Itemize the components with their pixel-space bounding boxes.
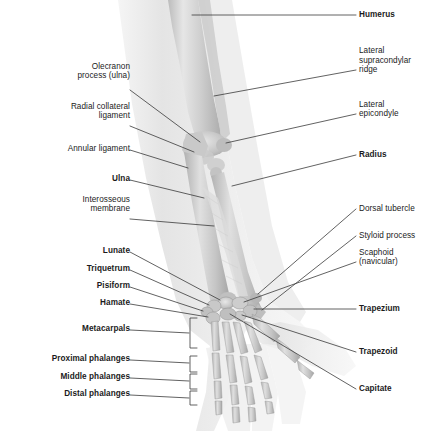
label-capitate: Capitate	[359, 384, 392, 394]
label-dorsal-tubercle: Dorsal tubercle	[359, 204, 415, 214]
label-interosseous-membrane: Interosseous membrane	[83, 195, 130, 214]
label-lunate: Lunate	[103, 246, 130, 256]
distal-phalanges-bracket	[190, 391, 197, 405]
label-radius: Radius	[359, 150, 387, 160]
label-annular-ligament: Annular ligament	[68, 144, 130, 154]
leader-proximal-phalanges	[130, 360, 189, 363]
label-lateral-epicondyle: Lateral epicondyle	[359, 100, 399, 119]
label-styloid-process: Styloid process	[359, 231, 415, 241]
label-olecranon-process-ulna: Olecranon process (ulna)	[77, 62, 130, 81]
middle-phalanges-bracket	[190, 374, 197, 389]
label-radial-collateral-ligament: Radial collateral ligament	[71, 102, 130, 121]
leader-metacarpals	[130, 330, 189, 333]
label-distal-phalanges: Distal phalanges	[64, 389, 130, 399]
label-trapezoid: Trapezoid	[359, 347, 398, 357]
leader-middle-phalanges	[130, 378, 189, 381]
label-pisiform: Pisiform	[97, 281, 130, 291]
label-trapezium: Trapezium	[359, 304, 400, 314]
label-proximal-phalanges: Proximal phalanges	[52, 354, 130, 364]
label-scaphoid-navicular: Scaphoid (navicular)	[359, 248, 398, 267]
leader-distal-phalanges	[130, 395, 189, 398]
label-metacarpals: Metacarpals	[82, 324, 130, 334]
label-hamate: Hamate	[100, 298, 130, 308]
proximal-phalanges-bracket	[190, 356, 197, 372]
soft-tissue-silhouette	[118, 0, 356, 431]
label-triquetrum: Triquetrum	[87, 264, 130, 274]
capitate-bone	[220, 308, 236, 320]
label-ulna: Ulna	[112, 174, 130, 184]
label-humerus: Humerus	[359, 10, 395, 20]
label-middle-phalanges: Middle phalanges	[61, 372, 131, 382]
label-lateral-supracondylar-ridge: Lateral supracondylar ridge	[359, 46, 411, 75]
